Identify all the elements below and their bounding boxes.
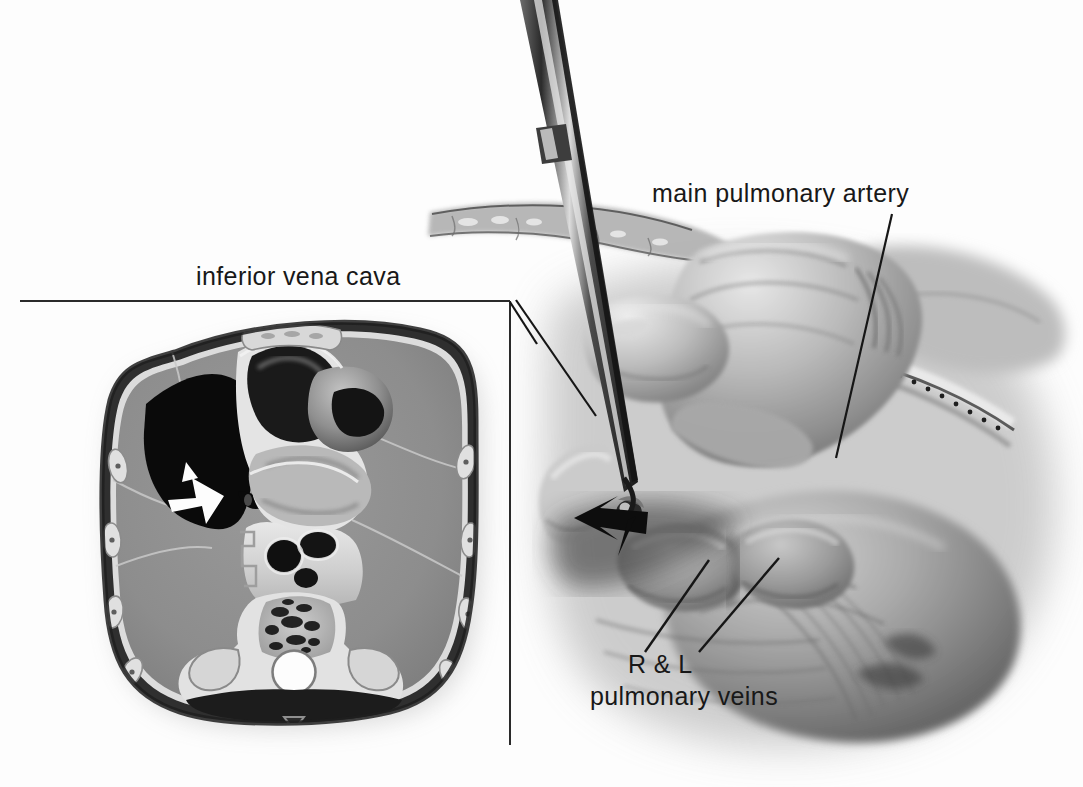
label-inferior-vena-cava: inferior vena cava (196, 262, 401, 292)
label-pulmonary-veins-line2: pulmonary veins (590, 682, 778, 712)
label-main-pulmonary-artery: main pulmonary artery (652, 179, 909, 209)
illustration-artwork (0, 0, 1083, 787)
label-pulmonary-veins-line1: R & L (628, 650, 693, 678)
label-pulmonary-veins: R & L pulmonary veins (628, 650, 778, 711)
figure-canvas: inferior vena cava main pulmonary artery… (0, 0, 1083, 787)
instrument-collar (536, 124, 572, 164)
